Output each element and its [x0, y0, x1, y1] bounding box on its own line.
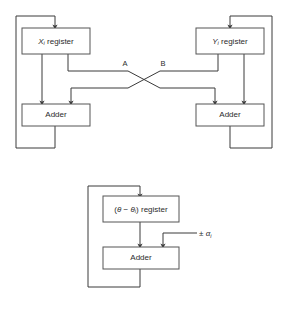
- wire-label-a: A: [122, 59, 127, 68]
- wire-b-y-to-left-adder: [71, 54, 218, 103]
- wire-alpha-input: [163, 233, 197, 246]
- alpha-input-label: ± αi: [199, 229, 212, 239]
- left-adder-label: Adder: [45, 110, 67, 119]
- block-diagram-svg: Xi register Yi register Adder Adder A B …: [0, 0, 288, 312]
- wire-a-x-to-right-adder: [68, 54, 215, 103]
- right-adder-label: Adder: [219, 110, 241, 119]
- angle-register-label: (θ − θi) register: [114, 205, 168, 214]
- x-register-label: Xi register: [37, 37, 74, 46]
- diagram-canvas: Xi register Yi register Adder Adder A B …: [0, 0, 288, 312]
- wire-label-b: B: [160, 59, 165, 68]
- angle-adder-label: Adder: [130, 253, 152, 262]
